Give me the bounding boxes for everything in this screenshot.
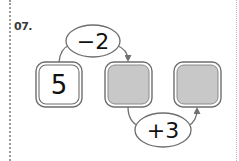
box-start-value-text: 5 bbox=[51, 70, 68, 100]
box-start-value: 5 bbox=[36, 62, 82, 107]
box-blank-answer-2[interactable] bbox=[174, 62, 221, 107]
operation-plus-3-label: +3 bbox=[147, 118, 179, 143]
operation-minus-2: −2 bbox=[66, 25, 120, 57]
operation-plus-3: +3 bbox=[135, 113, 191, 147]
operation-minus-2-label: −2 bbox=[77, 29, 109, 54]
box-blank-answer-1[interactable] bbox=[105, 62, 152, 107]
number-chain-diagram: 5 −2 +3 bbox=[0, 0, 239, 161]
